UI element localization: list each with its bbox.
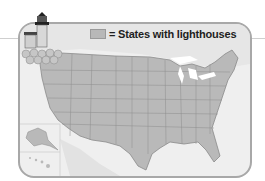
legend-swatch <box>90 29 106 39</box>
mexico-land <box>60 139 120 176</box>
divider-left <box>0 38 20 39</box>
hawaii <box>29 157 50 168</box>
map-legend: = States with lighthouses <box>90 28 236 40</box>
alaska <box>26 128 58 150</box>
legend-label: = States with lighthouses <box>109 28 236 40</box>
lighthouse-icon <box>18 10 64 70</box>
